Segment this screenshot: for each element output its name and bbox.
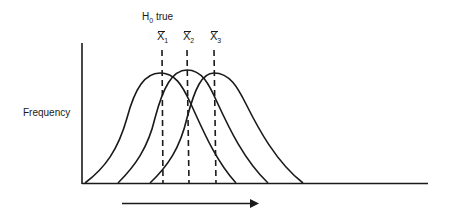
direction-arrow-head-icon xyxy=(250,199,259,208)
mean-subscript: 2 xyxy=(190,37,194,44)
mean-label-1: X1 xyxy=(157,30,168,44)
hypothesis-label: H0 true xyxy=(142,11,173,24)
mean-label-2: X2 xyxy=(183,30,194,44)
y-axis-label: Frequency xyxy=(23,107,70,118)
mean-label-3: X3 xyxy=(210,30,221,44)
distribution-curve-1 xyxy=(85,73,236,183)
mean-line-3 xyxy=(214,50,216,183)
mean-line-1 xyxy=(162,50,163,183)
hypothesis-rest: true xyxy=(153,11,173,22)
mean-subscript: 3 xyxy=(217,37,221,44)
distribution-curve-3 xyxy=(150,73,303,183)
distribution-curve-2 xyxy=(118,70,268,183)
mean-subscript: 1 xyxy=(164,37,168,44)
